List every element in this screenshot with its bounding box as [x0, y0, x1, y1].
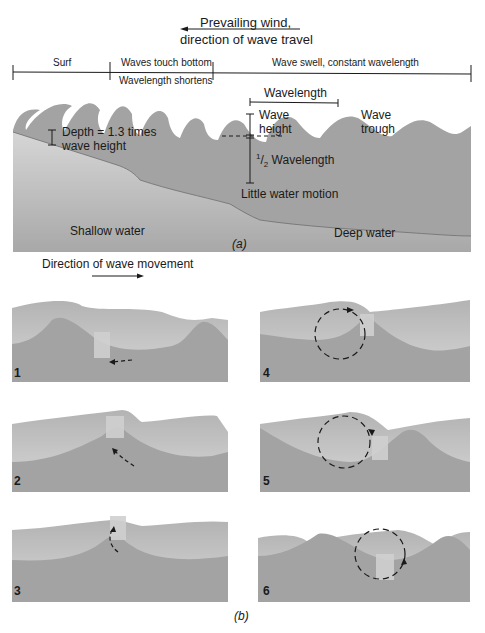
wave-panel-1: 1	[12, 296, 228, 382]
wave-panel-4: 4	[260, 296, 470, 382]
wave-panel-3: 3	[12, 516, 228, 602]
part-b-label: (b)	[234, 610, 249, 622]
panel-number-5: 5	[263, 474, 270, 488]
panel-number-6: 6	[263, 584, 270, 598]
wave-panel-5: 5	[260, 406, 470, 492]
panel-number-4: 4	[263, 366, 270, 380]
wave-panel-2: 2	[12, 406, 228, 492]
direction-arrow-right-icon	[0, 0, 485, 290]
wave-panel-6: 6	[258, 516, 470, 602]
panel-number-1: 1	[14, 366, 21, 380]
panel-number-2: 2	[14, 474, 21, 488]
panel-number-3: 3	[14, 584, 21, 598]
